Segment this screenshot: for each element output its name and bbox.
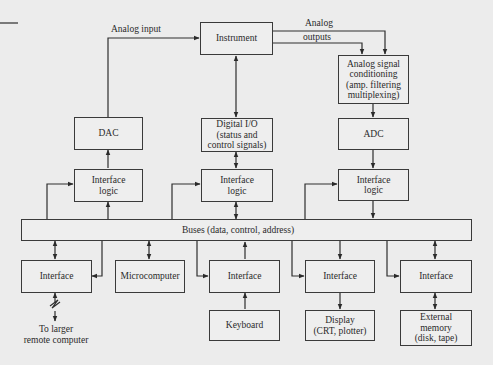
interface-4-box: Interface	[305, 260, 375, 293]
ext-memory-line1: External	[420, 312, 452, 323]
keyboard-label: Keyboard	[226, 320, 263, 331]
if-logic-left-line2: logic	[99, 186, 118, 197]
remote-line2: remote computer	[11, 335, 101, 346]
dac-label: DAC	[98, 128, 118, 139]
diagram-canvas: Analog input Analog outputs Instrument A…	[0, 0, 493, 365]
if-logic-right-line1: Interface	[357, 175, 391, 186]
analog-signal-conditioning-box: Analog signal conditioning (amp. filteri…	[338, 55, 409, 104]
dac-box: DAC	[74, 117, 143, 150]
ext-memory-line2: memory	[420, 323, 452, 334]
interface-logic-mid-box: Interface logic	[201, 169, 273, 202]
adc-label: ADC	[363, 129, 383, 140]
bus-box: Buses (data, control, address)	[21, 219, 472, 241]
interface-logic-right-box: Interface logic	[338, 169, 409, 201]
analog-cond-line4: multiplexing)	[348, 90, 400, 101]
if-logic-right-line2: logic	[364, 185, 383, 196]
if-logic-mid-line2: logic	[228, 186, 247, 197]
if-logic-left-line1: Interface	[92, 175, 126, 186]
if-logic-mid-line1: Interface	[220, 175, 254, 186]
digital-io-line1: Digital I/O	[216, 119, 257, 130]
interface-3-label: Interface	[228, 271, 262, 282]
analog-outputs-label-line1: Analog	[305, 18, 333, 28]
analog-cond-line1: Analog signal	[347, 59, 400, 70]
ext-memory-line3: (disk, tape)	[415, 333, 458, 344]
keyboard-box: Keyboard	[209, 310, 280, 341]
interface-logic-left-box: Interface logic	[74, 169, 143, 202]
analog-cond-line3: (amp. filtering	[346, 80, 401, 91]
digital-io-line2: (status and	[217, 130, 258, 141]
adc-box: ADC	[338, 118, 409, 150]
analog-input-label: Analog input	[111, 24, 161, 34]
interface-5-box: Interface	[400, 260, 472, 293]
interface-5-label: Interface	[419, 271, 453, 282]
display-box: Display (CRT, plotter)	[305, 310, 375, 341]
display-line1: Display	[325, 315, 355, 326]
digital-io-line3: control signals)	[208, 140, 267, 151]
instrument-box: Instrument	[200, 22, 273, 55]
interface-1-box: Interface	[21, 260, 92, 293]
bus-label: Buses (data, control, address)	[182, 225, 294, 236]
analog-cond-line2: conditioning	[349, 69, 397, 80]
interface-3-box: Interface	[209, 260, 280, 293]
remote-computer-label: To larger remote computer	[21, 324, 91, 346]
microcomputer-box: Microcomputer	[115, 260, 185, 293]
digital-io-box: Digital I/O (status and control signals)	[201, 118, 273, 152]
remote-line1: To larger	[21, 324, 91, 335]
external-memory-box: External memory (disk, tape)	[400, 310, 472, 346]
instrument-label: Instrument	[216, 33, 257, 44]
microcomputer-label: Microcomputer	[120, 271, 179, 282]
analog-outputs-label-line2: outputs	[303, 32, 331, 42]
interface-4-label: Interface	[323, 271, 357, 282]
interface-1-label: Interface	[40, 271, 74, 282]
display-line2: (CRT, plotter)	[313, 326, 366, 337]
